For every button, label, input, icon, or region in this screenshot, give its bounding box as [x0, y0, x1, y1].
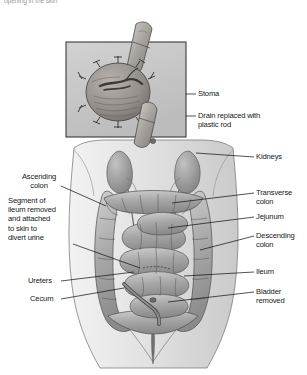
- label-transverse-colon: Transverse colon: [256, 188, 292, 206]
- label-bladder-removed: Bladder removed: [256, 287, 285, 305]
- label-ileum: Ileum: [256, 267, 274, 276]
- cut-off-caption-text: opening in the skin: [4, 0, 57, 4]
- label-ileum-segment: Segment of ileum removed and attached to…: [8, 196, 64, 242]
- inset-detail-panel: [66, 22, 186, 147]
- label-descending-colon: Descending colon: [256, 231, 295, 249]
- stoma-site-marker: [150, 138, 155, 143]
- label-kidneys: Kidneys: [256, 152, 282, 161]
- label-stoma: Stoma: [198, 89, 219, 98]
- label-jejunum: Jejunum: [256, 212, 284, 221]
- label-drain-rod: Drain replaced with plastic rod: [198, 111, 260, 129]
- medical-illustration-figure: opening in the skin: [0, 0, 307, 375]
- label-ureters: Ureters: [28, 276, 52, 285]
- label-cecum: Cecum: [30, 294, 53, 303]
- label-ascending-colon: Ascending colon: [16, 172, 62, 190]
